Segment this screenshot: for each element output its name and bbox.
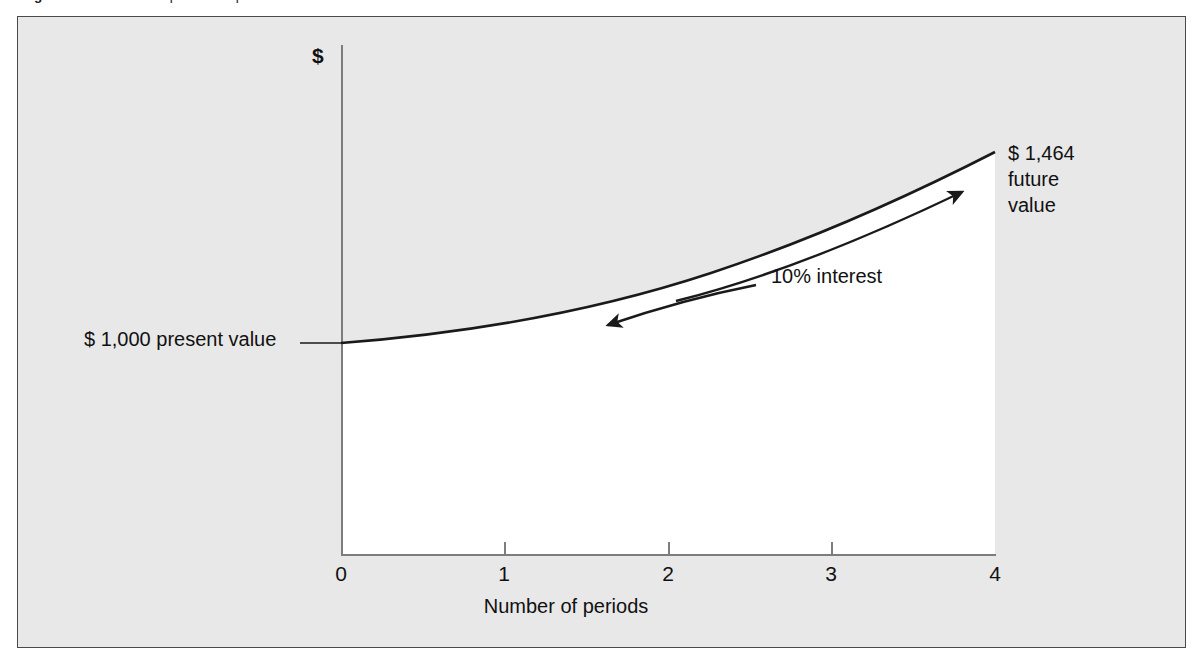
figure-caption-label: Figure bbox=[22, 0, 63, 3]
future-value-amount: $ 1,464 bbox=[1008, 140, 1075, 166]
present-value-label: $ 1,000 present value bbox=[84, 328, 276, 351]
x-tick-2 bbox=[668, 542, 670, 554]
future-value-line3: value bbox=[1008, 192, 1075, 218]
x-tick-3 bbox=[831, 542, 833, 554]
interest-rate-label: 10% interest bbox=[771, 265, 882, 288]
plot-area-fill bbox=[341, 151, 995, 555]
figure-caption: FigureThe relationship between present v… bbox=[22, 0, 922, 6]
x-tick-label-3: 3 bbox=[811, 562, 851, 586]
under-curve-region bbox=[341, 152, 995, 555]
x-tick-1 bbox=[504, 542, 506, 554]
x-tick-label-2: 2 bbox=[648, 562, 688, 586]
figure-stage: FigureThe relationship between present v… bbox=[0, 0, 1204, 667]
y-axis-line bbox=[341, 45, 343, 556]
x-tick-label-4: 4 bbox=[975, 562, 1015, 586]
future-value-line2: future bbox=[1008, 166, 1075, 192]
future-value-label: $ 1,464 future value bbox=[1008, 140, 1075, 218]
plot-fill-svg bbox=[341, 151, 995, 555]
figure-caption-text: The relationship between present value a… bbox=[81, 0, 417, 3]
x-axis-title-text: Number of periods bbox=[484, 595, 649, 617]
x-tick-label-1: 1 bbox=[484, 562, 524, 586]
x-axis-line bbox=[341, 554, 996, 556]
y-axis-label: $ bbox=[312, 44, 324, 68]
x-tick-label-0: 0 bbox=[321, 562, 361, 586]
x-axis-title: Number of periods bbox=[0, 595, 1204, 618]
